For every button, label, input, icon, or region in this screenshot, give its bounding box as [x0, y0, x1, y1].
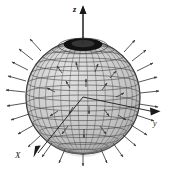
y-axis-label: y — [152, 119, 157, 128]
sphere-vector-field-figure: z — [0, 0, 171, 169]
figure-canvas: z — [0, 0, 171, 169]
x-axis-label: X — [14, 150, 21, 160]
